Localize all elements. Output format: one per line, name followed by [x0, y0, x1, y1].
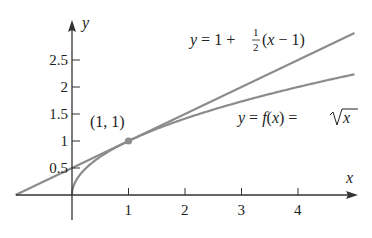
- y-tick-label: 1: [61, 133, 69, 149]
- svg-text:y = 1 +: y = 1 +: [188, 31, 235, 49]
- tangent-point-marker: [125, 137, 132, 144]
- y-axis-label: y: [80, 14, 90, 32]
- curve-equation-label: y = f(x) = x: [236, 109, 358, 127]
- tangent-equation-label: y = 1 + 1 2 (x − 1): [188, 26, 305, 53]
- x-tick-labels: 1234: [125, 202, 303, 218]
- x-tick-label: 3: [238, 202, 246, 218]
- svg-text:1: 1: [253, 26, 259, 38]
- svg-text:y = f(x) =: y = f(x) =: [236, 109, 297, 127]
- y-tick-labels: 0.511.522.5: [49, 52, 68, 176]
- svg-text:2: 2: [253, 41, 259, 53]
- x-tick-label: 1: [125, 202, 133, 218]
- x-tick-label: 4: [294, 202, 302, 218]
- x-axis-label: x: [345, 169, 353, 186]
- svg-text:x: x: [342, 109, 350, 126]
- sqrt-curve: [72, 74, 355, 195]
- x-tick-label: 2: [181, 202, 189, 218]
- y-tick-label: 0.5: [49, 160, 68, 176]
- svg-text:(x − 1): (x − 1): [262, 31, 305, 49]
- y-tick-label: 1.5: [49, 106, 68, 122]
- y-tick-label: 2.5: [49, 52, 68, 68]
- point-label: (1, 1): [90, 113, 125, 131]
- chart: 0.511.522.5 1234 y x (1, 1) y = 1 + 1 2 …: [0, 0, 372, 238]
- y-tick-label: 2: [61, 79, 69, 95]
